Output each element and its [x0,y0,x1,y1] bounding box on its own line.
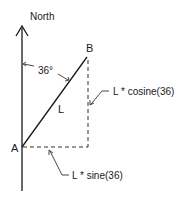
sine-leader [50,151,69,175]
point-a-label: A [11,142,19,154]
angle-leader-right [58,74,68,80]
length-label: L [58,103,64,115]
angle-label: 36° [38,65,53,76]
vector-ab [22,57,87,147]
north-label: North [30,11,54,22]
north-axis [16,26,28,191]
point-b-label: B [86,42,93,54]
vector-decomposition-diagram: North A B L 36° L * cosine(36) L * sine(… [0,0,188,199]
vertical-component-label: L * cosine(36) [113,86,174,97]
horizontal-component-label: L * sine(36) [72,170,123,181]
cosine-leader [91,91,109,104]
